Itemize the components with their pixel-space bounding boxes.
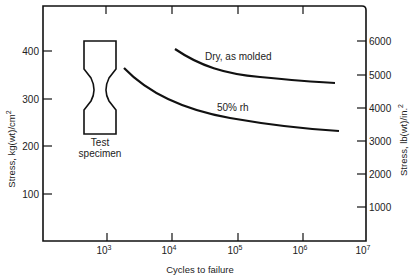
x-tick-1e4: 104 [161, 244, 176, 256]
y2-tick-5000: 5000 [369, 70, 392, 81]
x-tick-1e5: 105 [227, 244, 242, 256]
label-50-rh: 50% rh [217, 102, 249, 113]
y2-tick-2000: 2000 [369, 169, 392, 180]
y-axis-title-right: Stress, lb(wt)/in.2 [397, 104, 409, 176]
y2-tick-3000: 3000 [369, 136, 392, 147]
left-ticks [43, 51, 52, 194]
label-dry-as-molded: Dry, as molded [205, 51, 272, 62]
x-tick-1e3: 103 [96, 244, 111, 256]
y-tick-400: 400 [22, 46, 39, 57]
left-tick-labels: 400 300 200 100 [22, 46, 39, 200]
x-axis-title: Cycles to failure [166, 264, 234, 275]
top-ticks [106, 6, 303, 14]
y2-tick-1000: 1000 [369, 202, 392, 213]
series-50-rh [124, 68, 339, 131]
right-tick-labels: 6000 5000 4000 3000 2000 1000 [369, 36, 392, 213]
y2-tick-6000: 6000 [369, 36, 392, 47]
y-tick-300: 300 [22, 94, 39, 105]
specimen-label-line1: Test [91, 137, 110, 148]
fatigue-chart: 400 300 200 100 6000 5000 4000 3000 2000… [0, 0, 416, 277]
bottom-ticks [107, 233, 303, 241]
right-ticks [357, 41, 366, 207]
y-axis-title-left: Stress, kg(wt)/cm2 [5, 110, 17, 187]
specimen-label-line2: specimen [79, 148, 122, 159]
x-tick-1e6: 106 [292, 244, 307, 256]
x-tick-labels: 103 104 105 106 107 [96, 244, 370, 256]
y2-tick-4000: 4000 [369, 103, 392, 114]
x-tick-1e7: 107 [355, 244, 370, 256]
y-tick-100: 100 [22, 189, 39, 200]
y-tick-200: 200 [22, 141, 39, 152]
test-specimen-icon [84, 41, 116, 134]
